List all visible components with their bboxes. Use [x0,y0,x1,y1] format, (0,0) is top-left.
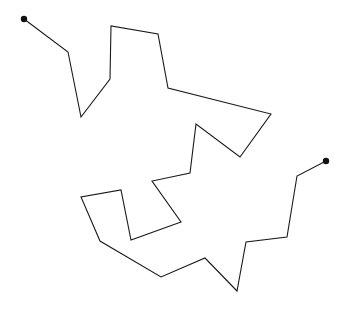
polyline-diagram [0,0,354,311]
figure-canvas [0,0,354,311]
canvas-background [0,0,354,311]
start-point-dot [21,16,27,22]
end-point-dot [323,158,329,164]
